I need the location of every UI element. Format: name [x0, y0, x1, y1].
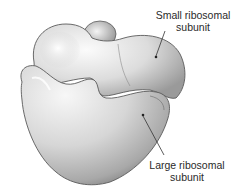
large-label-line2: subunit: [146, 171, 228, 183]
large-label-line1: Large ribosomal: [146, 159, 228, 171]
small-ribosomal-subunit-label: Small ribosomal subunit: [153, 9, 233, 33]
small-label-line1: Small ribosomal: [153, 9, 233, 21]
large-ribosomal-subunit-label: Large ribosomal subunit: [146, 159, 228, 183]
ribosome-diagram: Small ribosomal subunit Large ribosomal …: [0, 0, 242, 196]
small-label-line2: subunit: [153, 21, 233, 33]
